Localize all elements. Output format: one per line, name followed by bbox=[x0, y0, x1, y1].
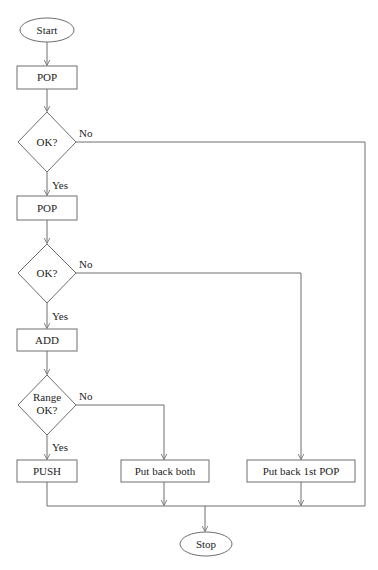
node-put-back-first-label: Put back 1st POP bbox=[263, 465, 340, 477]
node-push: PUSH bbox=[17, 460, 77, 482]
node-range-ok-label-line1: Range bbox=[33, 391, 61, 403]
node-put-back-both-label: Put back both bbox=[135, 465, 196, 477]
edge-range-no bbox=[76, 405, 164, 459]
edge-label-ok1-no: No bbox=[79, 127, 93, 139]
node-stop-label: Stop bbox=[196, 538, 217, 550]
node-push-label: PUSH bbox=[33, 465, 61, 477]
node-range-ok: Range OK? bbox=[18, 375, 76, 435]
node-pop2: POP bbox=[17, 196, 77, 220]
edge-ok2-no bbox=[76, 273, 301, 459]
node-ok2: OK? bbox=[18, 244, 76, 303]
node-put-back-first: Put back 1st POP bbox=[247, 460, 355, 482]
node-ok2-label: OK? bbox=[37, 267, 58, 279]
node-stop: Stop bbox=[180, 532, 232, 556]
node-range-ok-label-line2: OK? bbox=[37, 404, 58, 416]
edge-ok1-no bbox=[76, 142, 365, 506]
node-add: ADD bbox=[17, 329, 77, 351]
edge-label-ok2-yes: Yes bbox=[52, 310, 68, 322]
edge-label-ok1-yes: Yes bbox=[52, 179, 68, 191]
node-start-label: Start bbox=[37, 24, 58, 36]
edge-label-range-yes: Yes bbox=[52, 441, 68, 453]
edge-label-ok2-no: No bbox=[79, 258, 93, 270]
node-start: Start bbox=[20, 18, 74, 42]
node-add-label: ADD bbox=[35, 334, 59, 346]
edge-push-collector bbox=[47, 482, 301, 506]
node-put-back-both: Put back both bbox=[121, 460, 209, 482]
edge-label-range-no: No bbox=[79, 390, 93, 402]
node-ok1-label: OK? bbox=[37, 136, 58, 148]
node-pop2-label: POP bbox=[37, 202, 57, 214]
flowchart-canvas: Start POP OK? No Yes POP OK? No Yes ADD … bbox=[0, 0, 378, 570]
node-ok1: OK? bbox=[18, 112, 76, 172]
node-pop1-label: POP bbox=[37, 71, 57, 83]
node-pop1: POP bbox=[17, 66, 77, 89]
